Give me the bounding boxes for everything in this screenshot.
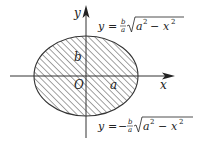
upper-equation: y = b a a 2 − x 2 xyxy=(97,17,184,34)
svg-text:−: − xyxy=(150,20,159,33)
origin-label: O xyxy=(74,78,84,92)
svg-text:x: x xyxy=(163,20,170,33)
y-axis-label: y xyxy=(73,6,81,20)
svg-text:−: − xyxy=(118,120,127,133)
svg-text:a: a xyxy=(128,126,132,134)
x-axis-label: x xyxy=(160,78,167,92)
b-label: b xyxy=(74,50,82,64)
svg-text:y: y xyxy=(97,120,105,133)
svg-text:b: b xyxy=(128,118,133,126)
svg-text:−: − xyxy=(158,120,167,133)
lower-equation: y = − b a a 2 − x 2 xyxy=(97,117,193,134)
svg-text:=: = xyxy=(108,120,117,133)
svg-text:2: 2 xyxy=(143,18,147,26)
svg-text:a: a xyxy=(121,26,125,34)
svg-text:a: a xyxy=(143,120,150,133)
svg-text:b: b xyxy=(121,18,126,26)
svg-text:y: y xyxy=(97,20,105,33)
svg-text:x: x xyxy=(171,120,178,133)
svg-text:a: a xyxy=(136,20,143,33)
svg-text:2: 2 xyxy=(179,118,183,126)
ellipse-diagram: y x O b a y = b a a 2 − x 2 y = − b a a … xyxy=(0,0,203,144)
svg-text:=: = xyxy=(108,20,117,33)
a-label: a xyxy=(110,78,117,92)
svg-text:2: 2 xyxy=(150,118,154,126)
svg-text:2: 2 xyxy=(171,18,175,26)
